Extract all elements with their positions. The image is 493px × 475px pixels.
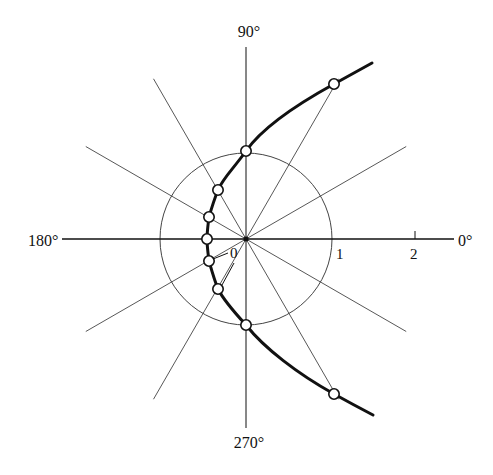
angle-label-0: 0° — [458, 232, 472, 249]
curve-marker-270deg — [241, 320, 251, 330]
curve-marker-210deg — [204, 256, 214, 266]
angle-label-90: 90° — [238, 23, 260, 40]
radial-line-60deg — [246, 79, 339, 239]
radius-label-0: 0 — [230, 245, 238, 261]
angle-label-180: 180° — [28, 232, 58, 249]
radius-label-1: 1 — [336, 246, 344, 262]
radial-line-300deg — [246, 239, 339, 399]
radius-label-2: 2 — [410, 246, 418, 262]
curve-marker-180deg — [202, 234, 212, 244]
curve-marker-60deg — [329, 79, 339, 89]
curve-marker-90deg — [241, 146, 251, 156]
zero-label-leader-2 — [222, 263, 234, 285]
radial-line-30deg — [246, 147, 406, 240]
angle-label-270: 270° — [234, 434, 264, 451]
polar-diagram: 90° 180° 0° 270° 0 1 2 — [0, 0, 493, 475]
radial-line-120deg — [154, 79, 247, 239]
radial-line-240deg — [154, 239, 247, 399]
curve-marker-300deg — [329, 389, 339, 399]
curve-marker-150deg — [204, 212, 214, 222]
curve-marker-120deg — [213, 185, 223, 195]
origin-point — [244, 237, 249, 242]
radial-line-330deg — [246, 239, 406, 332]
curve-marker-240deg — [213, 284, 223, 294]
